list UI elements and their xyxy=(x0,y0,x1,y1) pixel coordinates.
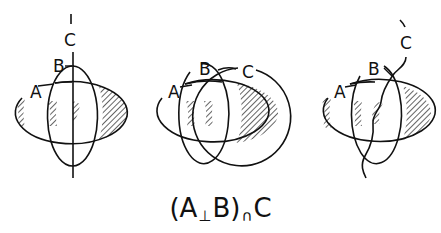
caption-mid: B) xyxy=(212,193,240,223)
panel-3-label-a: A xyxy=(334,82,346,102)
panel-2-label-b: B xyxy=(199,59,211,79)
panel-2: A B C xyxy=(157,59,291,166)
panel-3-label-b: B xyxy=(368,59,380,79)
venn-figure: A B C A xyxy=(0,0,441,233)
figure-caption: (A⊥B)∩C xyxy=(0,193,441,223)
panel-1: A B C xyxy=(15,14,130,178)
panel-1-label-c: C xyxy=(64,30,76,50)
caption-operator-perp: ⊥ xyxy=(198,207,211,225)
panel-2-label-a: A xyxy=(168,82,180,102)
panel-3: A B C xyxy=(321,20,435,178)
panel-1-label-a: A xyxy=(30,82,42,102)
panel-3-label-c: C xyxy=(400,33,412,53)
panel-2-label-c: C xyxy=(242,62,254,82)
caption-left: (A xyxy=(169,193,197,223)
caption-operator-intersect: ∩ xyxy=(241,207,252,225)
caption-right: C xyxy=(253,193,271,223)
panel-1-label-b: B xyxy=(53,56,65,76)
